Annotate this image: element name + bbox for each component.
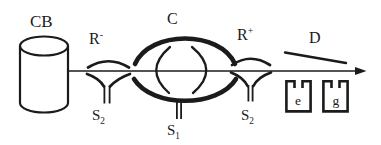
condenser-outer-top-plate: [135, 39, 235, 65]
label-cup-e: e: [295, 93, 301, 109]
right-electrode-stem: [248, 85, 252, 102]
apparatus-drawing: [0, 0, 381, 145]
label-condenser: C: [167, 10, 178, 28]
left-electrode-upper-arc: [88, 61, 129, 67]
label-right-electrode-base: R: [237, 26, 248, 43]
left-electrode-lower-arc: [87, 74, 130, 87]
condenser-inner-right-plate: [192, 47, 206, 93]
label-slit-right-sub: 2: [249, 116, 254, 126]
source-cylinder-top: [20, 37, 68, 56]
condenser-outer-bottom-plate: [134, 79, 236, 101]
label-slit-center: S1: [167, 122, 180, 139]
label-cup-g: g: [333, 93, 340, 109]
label-left-electrode-base: R: [89, 30, 100, 47]
right-electrode-upper-arc: [232, 59, 270, 65]
deflector-plate-line: [285, 53, 346, 64]
label-deflector: D: [309, 29, 321, 47]
condenser-inner-left-plate: [156, 47, 170, 93]
beam-arrowhead-icon: [355, 67, 367, 75]
label-left-electrode-sup: -: [100, 29, 103, 40]
label-slit-left: S2: [92, 107, 105, 124]
left-electrode-stem: [104, 86, 109, 104]
condenser-stem: [177, 101, 181, 120]
label-source-cylinder: CB: [30, 12, 53, 32]
label-slit-right: S2: [241, 107, 254, 124]
label-left-electrode: R-: [89, 30, 103, 48]
label-right-electrode: R+: [237, 26, 253, 44]
label-slit-center-sub: 1: [175, 131, 180, 141]
label-right-electrode-sup: +: [248, 25, 254, 36]
label-slit-left-sub: 2: [100, 116, 105, 126]
apparatus-diagram: CB R- C R+ D S2 S1 S2 e g: [0, 0, 381, 145]
